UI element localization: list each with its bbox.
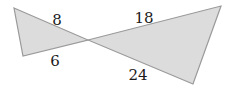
left-triangle <box>14 8 88 56</box>
label-left-lower-side: 6 <box>50 52 60 70</box>
right-triangle <box>88 6 221 84</box>
label-right-upper-side: 18 <box>134 9 153 27</box>
label-right-lower-side: 24 <box>128 66 147 84</box>
bowtie-diagram: 8 6 18 24 <box>0 0 229 90</box>
label-left-upper-side: 8 <box>52 11 62 29</box>
